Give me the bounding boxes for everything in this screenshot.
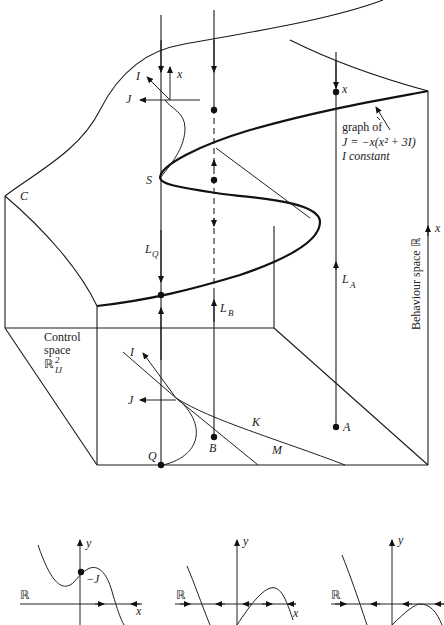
graph-annotation: graph of J = −x(x² + 3I) I constant bbox=[341, 107, 416, 163]
small-plot-3: y ℝ bbox=[331, 533, 444, 625]
svg-text:J = −x(x² + 3I): J = −x(x² + 3I) bbox=[342, 135, 416, 149]
svg-text:Q: Q bbox=[148, 449, 157, 463]
svg-text:x: x bbox=[135, 604, 142, 618]
svg-text:y: y bbox=[85, 536, 92, 550]
svg-text:B: B bbox=[228, 308, 234, 318]
svg-text:ℝ: ℝ bbox=[331, 588, 341, 602]
svg-text:L: L bbox=[144, 242, 152, 256]
svg-text:y: y bbox=[242, 534, 249, 548]
control-space-label: Control space ℝ 2 IJ bbox=[44, 330, 81, 375]
svg-text:J: J bbox=[126, 92, 132, 106]
top-axes: x J I bbox=[126, 67, 200, 106]
svg-text:x: x bbox=[176, 67, 183, 81]
bottom-axes: I J bbox=[128, 345, 176, 407]
label-K: K bbox=[251, 415, 261, 429]
behaviour-axis: x Behaviour space ℝ bbox=[409, 221, 441, 330]
svg-text:ℝ: ℝ bbox=[176, 588, 186, 602]
svg-text:Behaviour space ℝ: Behaviour space ℝ bbox=[409, 237, 423, 330]
svg-text:ℝ: ℝ bbox=[20, 588, 30, 602]
svg-text:L: L bbox=[341, 272, 349, 286]
small-plot-2: y x ℝ bbox=[175, 534, 299, 625]
svg-text:−J: −J bbox=[86, 572, 100, 586]
svg-text:graph of: graph of bbox=[342, 120, 382, 134]
fold-diagonal bbox=[216, 148, 310, 218]
svg-text:J: J bbox=[128, 393, 134, 407]
fold-line-upper bbox=[160, 100, 185, 178]
svg-text:y: y bbox=[397, 533, 404, 547]
line-LA: x L A A bbox=[333, 52, 356, 434]
svg-text:A: A bbox=[342, 420, 351, 434]
svg-text:S: S bbox=[146, 173, 152, 187]
label-C: C bbox=[20, 189, 29, 203]
cusp-catastrophe-diagram: x J I I J L Q S Q L B B bbox=[0, 0, 444, 625]
svg-text:ℝ: ℝ bbox=[44, 357, 54, 371]
svg-text:A: A bbox=[349, 280, 356, 290]
svg-text:I: I bbox=[135, 69, 141, 83]
label-M: M bbox=[271, 443, 283, 457]
svg-text:L: L bbox=[219, 301, 227, 315]
small-plot-1: y x ℝ −J bbox=[20, 536, 142, 625]
svg-text:IJ: IJ bbox=[54, 365, 63, 375]
svg-text:I constant: I constant bbox=[341, 149, 390, 163]
svg-text:x: x bbox=[434, 221, 441, 235]
line-LB: L B B bbox=[209, 10, 234, 455]
svg-text:B: B bbox=[209, 441, 217, 455]
svg-text:I: I bbox=[129, 345, 135, 359]
svg-text:x: x bbox=[292, 606, 299, 620]
svg-text:2: 2 bbox=[55, 355, 60, 365]
svg-text:x: x bbox=[341, 82, 348, 96]
svg-text:Q: Q bbox=[152, 249, 159, 259]
svg-text:Control: Control bbox=[44, 330, 81, 344]
